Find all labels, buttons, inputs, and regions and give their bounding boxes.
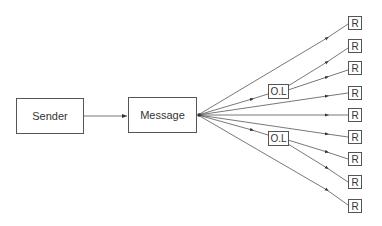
edge-message-ol-upper (198, 94, 268, 115)
receiver-label: R (351, 18, 358, 29)
ol-upper-node: O.L (268, 84, 289, 99)
ol-lower-node: O.L (268, 131, 289, 146)
message-node: Message (128, 97, 197, 133)
receiver-label: R (351, 154, 358, 165)
receiver-node-7: R (348, 152, 362, 166)
receiver-node-6: R (348, 130, 362, 144)
edge-ol-lower-r8 (288, 144, 348, 182)
receiver-node-8: R (348, 175, 362, 189)
receiver-label: R (351, 41, 358, 52)
edge-message-ol-lower (198, 115, 268, 135)
receiver-label: R (351, 201, 358, 212)
sender-node: Sender (16, 98, 84, 134)
ol-upper-label: O.L (270, 86, 286, 97)
receiver-label: R (351, 88, 358, 99)
receiver-label: R (351, 177, 358, 188)
sender-label: Sender (32, 110, 67, 122)
receiver-node-2: R (348, 39, 362, 53)
ol-lower-label: O.L (270, 133, 286, 144)
edge-message-r9 (198, 115, 348, 205)
receiver-label: R (351, 132, 358, 143)
receiver-node-4: R (348, 86, 362, 100)
message-label: Message (140, 109, 185, 121)
receiver-node-3: R (348, 61, 362, 75)
receiver-node-5: R (348, 108, 362, 122)
receiver-node-9: R (348, 199, 362, 213)
receiver-label: R (351, 110, 358, 121)
receiver-label: R (351, 63, 358, 74)
receiver-node-1: R (348, 16, 362, 30)
fan-out-junction (197, 113, 201, 117)
arrowhead-icon (122, 114, 127, 118)
edge-message-r1 (198, 24, 348, 115)
